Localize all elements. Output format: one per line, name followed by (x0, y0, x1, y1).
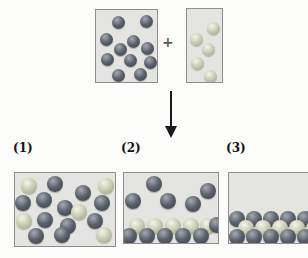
down-arrow-icon (158, 88, 184, 140)
dark-sphere (134, 68, 147, 81)
particle-diagram: + (1) (2) (3) (0, 0, 308, 258)
dark-sphere (185, 196, 201, 212)
result-box-2-partially-settled-mixture (123, 172, 219, 244)
result-box-3-layered-solid (228, 172, 308, 244)
dark-sphere (15, 195, 31, 211)
light-sphere (202, 43, 215, 56)
dark-sphere (112, 69, 125, 82)
dark-sphere (100, 33, 113, 46)
dark-sphere (200, 183, 216, 199)
dark-sphere (101, 53, 114, 66)
light-sphere (16, 213, 32, 229)
dark-sphere (209, 217, 219, 233)
dark-sphere (229, 229, 245, 244)
dark-sphere (54, 227, 70, 243)
dark-sphere (146, 176, 162, 192)
option-1-label: (1) (13, 141, 33, 155)
light-sphere (191, 57, 204, 70)
dark-sphere (175, 228, 191, 244)
reactant-box-light-spheres (186, 8, 223, 83)
dark-sphere (112, 16, 125, 29)
dark-sphere (28, 228, 44, 244)
light-sphere (21, 178, 37, 194)
light-sphere (96, 227, 112, 243)
plus-sign: + (162, 34, 174, 50)
dark-sphere (125, 193, 141, 209)
dark-sphere (139, 228, 155, 244)
dark-sphere (75, 185, 91, 201)
dark-sphere (246, 229, 262, 244)
dark-sphere (160, 193, 176, 209)
option-2-label: (2) (121, 141, 141, 155)
dark-sphere (36, 192, 52, 208)
dark-sphere (144, 56, 157, 69)
result-box-1-homogeneous-mixture (14, 172, 116, 247)
light-sphere (207, 22, 220, 35)
dark-sphere (114, 43, 127, 56)
dark-sphere (47, 176, 63, 192)
dark-sphere (124, 54, 137, 67)
option-3-label: (3) (226, 141, 246, 155)
dark-sphere (157, 228, 173, 244)
dark-sphere (140, 15, 153, 28)
light-sphere (190, 33, 203, 46)
dark-sphere (127, 35, 140, 48)
light-sphere (71, 204, 87, 220)
dark-sphere (37, 212, 53, 228)
dark-sphere (280, 229, 296, 244)
light-sphere (98, 178, 114, 194)
dark-sphere (263, 229, 279, 244)
dark-sphere (94, 195, 110, 211)
dark-sphere (123, 228, 137, 244)
light-sphere (204, 70, 217, 83)
dark-sphere (193, 228, 209, 244)
dark-sphere (141, 42, 154, 55)
reactant-box-dark-spheres (95, 9, 158, 83)
dark-sphere (297, 229, 308, 244)
